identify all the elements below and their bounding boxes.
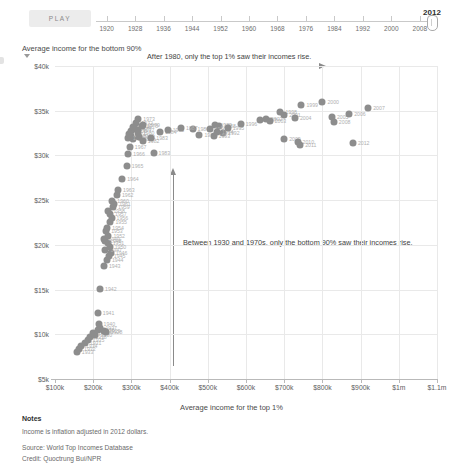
data-point[interactable] [148,135,155,142]
data-point-label: 1999 [306,102,318,108]
data-point[interactable] [298,102,305,109]
y-axis-tick-label: $20k [34,241,49,248]
scatter-plot-area: $100k$200k$300k$400k$500k$600k$700k$800k… [55,66,437,379]
data-point[interactable] [291,114,298,121]
slider-tick-label: 1976 [299,25,313,32]
slider-tick-label: 1984 [327,25,341,32]
slider-tick-label: 2008 [413,25,427,32]
slider-tick-label: 1952 [213,25,227,32]
data-point[interactable] [119,175,126,182]
data-point[interactable] [189,125,196,132]
y-axis-tick-label: $25k [34,197,49,204]
slider-tick-label: 1928 [128,25,142,32]
y-axis-tick-label: $40k [34,63,49,70]
data-point[interactable] [102,329,109,336]
data-point[interactable] [94,309,101,316]
data-point[interactable] [139,138,146,145]
y-axis-title: Average income for the bottom 90% [22,44,142,53]
data-point-label: 1954 [112,225,124,231]
data-point[interactable] [281,112,288,119]
data-point[interactable] [365,105,372,112]
data-point[interactable] [330,119,337,126]
data-point[interactable] [157,129,164,136]
notes-source: Source: World Top Incomes Database [22,443,148,453]
data-point-label: 2008 [339,119,351,125]
data-point-label: 2000 [327,99,339,105]
data-point-label: 2011 [305,142,316,148]
data-point[interactable] [100,263,107,270]
x-axis-tick [322,379,323,383]
selected-year-label: 2012 [423,8,441,17]
slider-handle[interactable] [427,15,438,31]
notes-body: Income is inflation adjusted in 2012 dol… [22,427,148,437]
data-point-label: 2004 [300,115,312,121]
data-point[interactable] [266,118,273,125]
data-point[interactable] [126,144,133,151]
x-axis-tick [55,379,56,383]
slider-tick [192,16,193,21]
chevron-down-icon [24,54,30,58]
data-point[interactable] [125,150,132,157]
data-point-label: 1964 [127,176,139,182]
data-point[interactable] [109,198,116,205]
data-point-label: 1933 [82,349,94,355]
x-axis-tick [208,379,209,383]
y-axis-tick-label: $30k [34,152,49,159]
grid-line-vertical [399,66,400,379]
grid-line-vertical [208,66,209,379]
notes-heading: Notes [22,415,148,422]
data-point-label: 1943 [109,263,121,269]
data-point-label: 1983 [156,135,168,141]
x-axis-tick-label: $700k [275,384,294,391]
year-timeline-slider[interactable]: 1920192819361944195219601968197619841992… [96,10,436,40]
data-point-label: 1996 [246,121,258,127]
data-point[interactable] [150,149,157,156]
visualization-root: PLAY 19201928193619441952196019681976198… [0,0,463,471]
grid-line-vertical [131,66,132,379]
x-axis-tick-label: $900k [351,384,370,391]
data-point[interactable] [319,98,326,105]
data-point[interactable] [178,124,185,131]
data-point-label: 1961 [119,201,131,207]
data-point[interactable] [196,131,203,138]
slider-tick-label: 2000 [384,25,398,32]
x-axis-tick [170,379,171,383]
data-point[interactable] [140,122,147,129]
data-point-label: 1945 [114,253,126,259]
data-point[interactable] [237,121,244,128]
data-point[interactable] [349,139,356,146]
y-axis-tick [51,379,55,380]
data-point[interactable] [297,141,304,148]
slider-tick-label: 1992 [356,25,370,32]
y-axis-tick-label: $10k [34,331,49,338]
footer-notes: Notes Income is inflation adjusted in 20… [22,415,148,466]
y-axis-tick-label: $15k [34,286,49,293]
data-point[interactable] [97,285,104,292]
data-point-label: 1952 [113,233,125,239]
slider-tick [363,16,364,21]
data-point[interactable] [95,320,102,327]
grid-line-vertical [246,66,247,379]
data-point[interactable] [164,127,171,134]
slider-tick [391,16,392,21]
data-point-label: 1931 [90,340,102,346]
data-point[interactable] [346,111,353,118]
data-point[interactable] [115,187,122,194]
data-point[interactable] [224,124,231,131]
slider-tick [306,16,307,21]
data-point-label: 1978 [147,123,159,129]
data-point-label: 1941 [103,310,115,316]
data-point[interactable] [281,136,288,143]
notes-credit: Credit: Quoctrung Bui/NPR [22,454,148,464]
data-point[interactable] [213,129,220,136]
grid-line-horizontal [55,111,437,112]
play-button[interactable]: PLAY [29,10,91,27]
x-axis-tick [361,379,362,383]
x-axis-title: Average income for the top 1% [0,403,463,412]
x-axis-tick-label: $600k [237,384,256,391]
x-axis-tick-label: $200k [84,384,103,391]
data-point[interactable] [123,163,130,170]
data-point[interactable] [104,224,111,231]
data-point-label: 1977 [143,127,155,133]
slider-tick [420,16,421,21]
